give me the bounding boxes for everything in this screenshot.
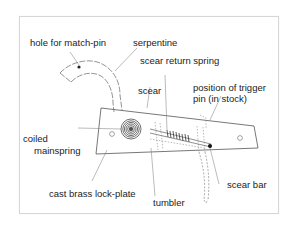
trigger-shape <box>199 152 209 203</box>
label-coiled-line2: mainspring <box>34 146 80 157</box>
hidden-parts <box>150 115 206 152</box>
scear-bar-end <box>208 144 212 148</box>
label-scear-return-spring: scear return spring <box>140 56 219 67</box>
match-pin-hole <box>77 65 80 68</box>
label-serpentine: serpentine <box>133 38 177 49</box>
label-position-of-trigger-line1: position of trigger <box>193 83 266 94</box>
plate-screw-hole-left <box>110 132 115 137</box>
label-tumbler: tumbler <box>153 198 185 209</box>
scear-bar-shape <box>150 129 211 147</box>
label-cast-brass-lock-plate: cast brass lock-plate <box>49 189 136 200</box>
lock-plate-shape <box>96 108 258 154</box>
serpentine-shape <box>60 61 122 112</box>
label-coiled-line1: coiled <box>23 134 48 145</box>
label-hole-for-match-pin: hole for match-pin <box>30 38 106 49</box>
label-position-of-trigger-line2: pin (in stock) <box>193 94 247 105</box>
plate-screw-hole-right <box>238 136 243 141</box>
leader-lines <box>70 48 221 196</box>
label-scear: scear <box>138 86 161 97</box>
label-scear-bar: scear bar <box>227 180 267 191</box>
coiled-mainspring-shape <box>121 119 141 139</box>
